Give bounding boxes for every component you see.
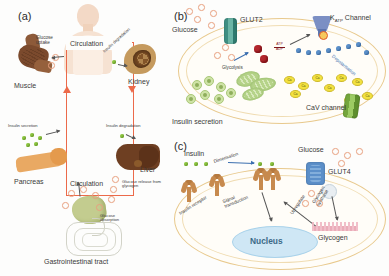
label-cav-channel: CaV channel <box>306 104 346 111</box>
glucose-dot <box>302 200 309 207</box>
label-glucose-c: Glucose <box>298 146 324 153</box>
label-insulin-secretion-b: Insulin secretion <box>172 118 223 125</box>
insulin-vesicle <box>186 94 196 104</box>
process-label-glucose-uptake: Glucose uptake <box>36 36 66 46</box>
glucose-dot <box>48 62 55 69</box>
glut2-transporter <box>224 18 237 44</box>
kidney-illustration <box>124 44 156 74</box>
organ-label-gi-tract: Gastrointestinal tract <box>44 258 108 265</box>
insulin-dot <box>270 162 274 166</box>
organ-label-liver: Liver <box>140 166 155 173</box>
label-glycolysis: Glycolysis <box>222 66 243 71</box>
arrow-insulin-secretion <box>46 131 60 135</box>
glucose-dot <box>344 152 351 159</box>
atp-text: ATP <box>274 43 285 47</box>
insulin-dot <box>22 136 26 140</box>
atp-molecule <box>260 55 268 63</box>
process-label-insulin-degradation-liver: Insulin degradation <box>106 124 141 128</box>
glucose-dot <box>62 202 69 209</box>
atp-adp-ratio-label: ATP ADP <box>274 43 285 52</box>
process-label-insulin-secretion: Insulin secretion <box>8 124 38 128</box>
calcium-ion: Ca <box>284 76 295 84</box>
insulin-vesicle <box>226 88 236 98</box>
calcium-ion: Ca <box>312 74 323 82</box>
calcium-ion: Ca <box>352 78 363 86</box>
organ-label-muscle: Muscle <box>14 82 36 89</box>
insulin-vesicle <box>214 94 224 104</box>
insulin-dot <box>30 133 34 137</box>
label-glucose-b: Glucose <box>172 26 198 33</box>
circulation-arrow-up <box>63 86 71 93</box>
glycogen-chain <box>312 222 358 231</box>
insulin-receptor-monomer <box>182 180 196 202</box>
calcium-ion: Ca <box>362 92 373 100</box>
glucose-dot <box>332 148 339 155</box>
glucose-dot <box>208 22 215 29</box>
calcium-ion: Ca <box>298 82 309 90</box>
glucose-dot <box>214 52 221 59</box>
insulin-receptor-dimer-right <box>266 168 280 190</box>
calcium-ion: Ca <box>336 74 347 82</box>
insulin-dot <box>184 162 188 166</box>
adp-text: ADP <box>274 48 285 52</box>
calcium-ion: Ca <box>290 90 301 98</box>
label-glycogen: Glycogen <box>318 234 348 241</box>
glucose-dot <box>198 4 205 11</box>
glucose-dot <box>222 44 229 51</box>
glucose-dot <box>110 186 117 193</box>
label-katp-channel: KATP Channel <box>330 14 371 24</box>
katp-subscript: ATP <box>335 18 343 23</box>
katp-channel-protein <box>312 16 332 38</box>
panel-b: (b) Glucose GLUT2 Glycolysis ATP ADP <box>166 0 389 138</box>
katp-suffix: Channel <box>343 14 371 21</box>
figure-root: (a) Circulation Circulation Muscle Gluco… <box>0 0 389 276</box>
insulin-vesicle <box>200 90 210 100</box>
insulin-dot <box>38 136 42 140</box>
calcium-ion: Ca <box>324 84 335 92</box>
glucose-dot <box>186 8 193 15</box>
organ-label-kidney: Kidney <box>128 78 149 85</box>
glucose-dot <box>68 190 75 197</box>
panel-a: (a) Circulation Circulation Muscle Gluco… <box>0 0 166 276</box>
glucose-dot <box>338 160 345 167</box>
panel-a-label: (a) <box>18 10 31 22</box>
glucose-dot <box>356 148 363 155</box>
label-nucleus: Nucleus <box>250 236 283 246</box>
insulin-vesicle <box>204 76 214 86</box>
panel-c: (c) Insulin Insulin receptor Dimerisatio… <box>166 138 389 276</box>
label-insulin-c: Insulin <box>184 150 204 157</box>
insulin-receptor-monomer <box>210 174 224 196</box>
circulation-label-top: Circulation <box>70 40 103 47</box>
glucose-dot <box>80 186 87 193</box>
arrow-dimerisation <box>228 162 254 164</box>
glucose-dot <box>96 204 103 211</box>
insulin-dot <box>258 162 262 166</box>
label-glut2: GLUT2 <box>240 16 263 23</box>
insulin-vesicle <box>192 80 202 90</box>
glucose-dot <box>92 192 99 199</box>
process-label-glucose-absorption: Glucose absorption <box>100 214 130 223</box>
glucose-dot <box>210 10 217 17</box>
pancreas-illustration <box>16 146 68 176</box>
insulin-dot <box>194 162 198 166</box>
glut4-transporter <box>306 162 325 185</box>
organ-label-pancreas: Pancreas <box>14 178 44 185</box>
circulation-arrow-down <box>128 86 136 93</box>
atp-molecule <box>254 45 262 53</box>
insulin-dot <box>204 162 208 166</box>
process-label-glucose-release: Glucose release from glycogen <box>122 180 166 189</box>
insulin-vesicle <box>216 82 226 92</box>
glucose-dot <box>194 16 201 23</box>
glucose-dot <box>112 176 119 183</box>
